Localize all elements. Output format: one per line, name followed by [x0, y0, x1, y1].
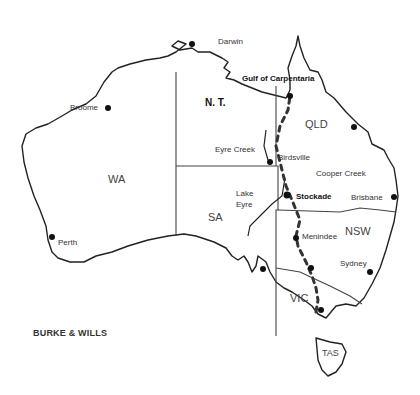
- state-label-wa: WA: [108, 174, 125, 185]
- place-darwin: Darwin: [218, 38, 243, 46]
- place-lake-eyre-line2: Eyre: [236, 201, 252, 209]
- place-gulf-of-carpentaria: Gulf of Carpentaria: [242, 75, 314, 83]
- state-label-qld: QLD: [305, 119, 328, 130]
- state-label-tas: TAS: [322, 349, 339, 358]
- broome-dot: [105, 105, 111, 111]
- brisbane-dot: [391, 194, 397, 200]
- qld-coast-dot: [351, 124, 357, 130]
- place-broome: Broome: [70, 104, 98, 112]
- birdsville-dot: [267, 159, 273, 165]
- adelaide-dot: [260, 266, 266, 272]
- state-label-nt: N. T.: [205, 98, 226, 108]
- melbourne-dot: [318, 307, 324, 313]
- route-dot: [308, 265, 314, 271]
- map-title: BURKE & WILLS: [33, 328, 107, 338]
- place-brisbane: Brisbane: [351, 194, 383, 202]
- state-label-vic: VIC: [290, 293, 308, 304]
- place-birdsville: Birdsville: [278, 154, 310, 162]
- state-label-sa: SA: [208, 212, 223, 223]
- place-stockade: Stockade: [296, 193, 332, 201]
- perth-dot: [49, 234, 55, 240]
- place-menindee: Menindee: [302, 233, 337, 241]
- place-sydney: Sydney: [340, 260, 367, 268]
- darwin-dot: [189, 41, 195, 47]
- place-perth: Perth: [58, 239, 77, 247]
- place-cooper-creek: Cooper Creek: [316, 170, 366, 178]
- place-eyre-creek: Eyre Creek: [215, 146, 255, 154]
- place-lake-eyre-line1: Lake: [236, 190, 253, 198]
- gulf-dot: [287, 93, 293, 99]
- sydney-dot: [367, 269, 373, 275]
- state-label-nsw: NSW: [345, 226, 371, 237]
- menindee-dot: [293, 235, 299, 241]
- stockade-dot: [284, 192, 291, 199]
